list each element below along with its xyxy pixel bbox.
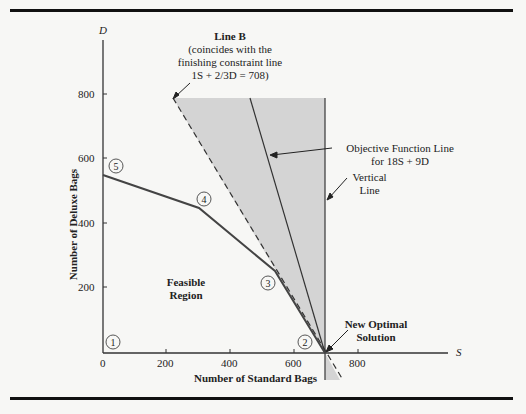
feasible-region-label: Feasible Region — [158, 276, 214, 302]
line-b-title: Line B — [165, 30, 295, 43]
x-tick-600: 600 — [285, 357, 302, 370]
point-5-label: 5 — [111, 160, 121, 173]
y-tick-200: 200 — [78, 281, 95, 294]
objective-annotation: Objective Function Line for 18S + 9D — [335, 142, 465, 168]
objective-label-1: Objective Function Line — [335, 142, 465, 155]
x-axis-title: Number of Standard Bags — [194, 372, 317, 385]
x-axis-symbol: S — [456, 346, 462, 359]
point-1-label: 1 — [108, 336, 118, 349]
point-4-label: 4 — [199, 193, 209, 206]
y-tick-800: 800 — [78, 88, 95, 101]
y-axis-symbol: D — [99, 24, 107, 37]
y-axis-title: Number of Deluxe Bags — [67, 160, 80, 290]
point-3-label: 3 — [263, 277, 273, 290]
x-tick-400: 400 — [221, 357, 238, 370]
point-2-label: 2 — [300, 336, 310, 349]
y-tick-400: 400 — [78, 217, 95, 230]
optimal-solution-label: New Optimal Solution — [340, 318, 412, 344]
optimal-label-1: New Optimal — [340, 318, 412, 331]
line-b-annotation: Line B (coincides with the finishing con… — [165, 30, 295, 82]
vertical-label-2: Line — [347, 184, 392, 197]
feasible-label-2: Region — [158, 289, 214, 302]
vertical-label-1: Vertical — [347, 171, 392, 184]
y-tick-600: 600 — [78, 152, 95, 165]
line-b-desc-1: (coincides with the — [165, 43, 295, 56]
line-b-desc-2: finishing constraint line — [165, 56, 295, 69]
feasible-label-1: Feasible — [158, 276, 214, 289]
x-tick-0: 0 — [100, 357, 106, 370]
x-tick-800: 800 — [349, 357, 366, 370]
x-tick-200: 200 — [157, 357, 174, 370]
vertical-line-annotation: Vertical Line — [347, 171, 392, 197]
objective-label-2: for 18S + 9D — [335, 155, 465, 168]
optimal-label-2: Solution — [340, 331, 412, 344]
line-b-equation: 1S + 2/3D = 708) — [165, 69, 295, 82]
